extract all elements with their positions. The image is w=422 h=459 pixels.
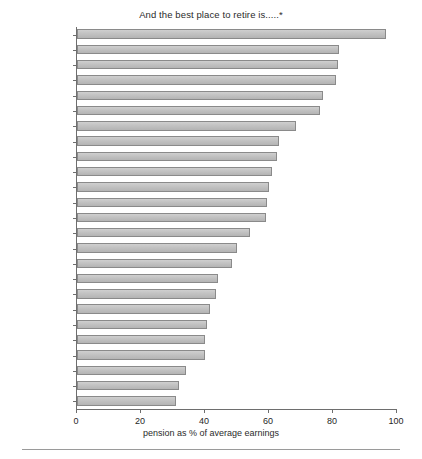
y-axis-tick: [73, 325, 76, 326]
bar-row: Poland: [76, 165, 396, 180]
x-axis-tick: [140, 409, 141, 413]
bar: [77, 60, 338, 69]
x-axis-tick: [268, 409, 269, 413]
bar-row: Italy: [76, 119, 396, 134]
x-axis-tick-label: 80: [327, 416, 337, 426]
y-axis-tick: [73, 126, 76, 127]
retirement-pension-bar-chart: And the best place to retire is.....* Gr…: [0, 0, 422, 459]
y-axis-tick: [73, 35, 76, 36]
bar-row: Finland: [76, 134, 396, 149]
x-axis-tick: [332, 409, 333, 413]
bar: [77, 289, 216, 298]
bar-row: Norway: [76, 180, 396, 195]
x-axis-tick-label: 0: [73, 416, 78, 426]
bar-row: New Zealand: [76, 348, 396, 363]
y-axis-tick: [73, 371, 76, 372]
bar-row: Denmark: [76, 103, 396, 118]
x-axis-title: pension as % of average earnings: [0, 428, 422, 438]
bar: [77, 29, 386, 38]
bar-row: Germany: [76, 333, 396, 348]
y-axis-tick: [73, 96, 76, 97]
y-axis-tick: [73, 111, 76, 112]
y-axis-tick: [73, 294, 76, 295]
bar: [77, 167, 272, 176]
bar-row: Ireland: [76, 378, 396, 393]
bar-row: Australia: [76, 287, 396, 302]
bar-row: UK: [76, 394, 396, 409]
bar: [77, 243, 237, 252]
bar-row: Hungary: [76, 88, 396, 103]
bar: [77, 304, 210, 313]
bar: [77, 228, 250, 237]
y-axis-tick: [73, 233, 76, 234]
bar: [77, 259, 232, 268]
y-axis-tick: [73, 157, 76, 158]
x-axis-tick: [76, 409, 77, 413]
y-axis-tick: [73, 172, 76, 173]
y-axis-tick: [73, 203, 76, 204]
bar-row: Canada: [76, 271, 396, 286]
y-axis-tick: [73, 264, 76, 265]
bar-row: N'lands: [76, 42, 396, 57]
bar: [77, 274, 218, 283]
bar-row: Spain: [76, 58, 396, 73]
chart-title: And the best place to retire is.....*: [0, 9, 422, 20]
y-axis-tick: [73, 340, 76, 341]
bar-row: France: [76, 241, 396, 256]
bar-row: Czech Rep.: [76, 256, 396, 271]
bar: [77, 106, 320, 115]
y-axis-tick: [73, 80, 76, 81]
y-axis-tick: [73, 386, 76, 387]
x-axis-tick-label: 100: [388, 416, 403, 426]
y-axis-tick: [73, 401, 76, 402]
x-axis-line: [76, 409, 396, 410]
plot-area: GreeceN'landsSpainAustriaHungaryDenmarkI…: [76, 27, 396, 409]
bar-row: Sweden: [76, 149, 396, 164]
y-axis-tick: [73, 187, 76, 188]
x-axis-tick-label: 60: [263, 416, 273, 426]
y-axis-tick: [73, 218, 76, 219]
y-axis-tick: [73, 142, 76, 143]
x-axis-tick-label: 40: [199, 416, 209, 426]
bar: [77, 152, 277, 161]
y-axis-tick: [73, 310, 76, 311]
bar-row: Portugal: [76, 226, 396, 241]
bar: [77, 136, 279, 145]
bar: [77, 91, 323, 100]
bar: [77, 45, 339, 54]
bar: [77, 198, 267, 207]
bar: [77, 320, 207, 329]
bar: [77, 182, 269, 191]
bar-row: Japan: [76, 363, 396, 378]
y-axis-tick: [73, 65, 76, 66]
y-axis-tick: [73, 279, 76, 280]
bar: [77, 75, 336, 84]
bar: [77, 213, 266, 222]
bar-row: Greece: [76, 27, 396, 42]
bar: [77, 121, 296, 130]
bar-row: Belgium: [76, 317, 396, 332]
footer-divider: [22, 449, 400, 450]
bar-row: OECD: [76, 195, 396, 210]
x-axis-tick-label: 20: [135, 416, 145, 426]
bar-row: Austria: [76, 73, 396, 88]
x-axis-tick: [396, 409, 397, 413]
x-axis-tick: [204, 409, 205, 413]
y-axis-tick: [73, 249, 76, 250]
bar: [77, 366, 186, 375]
bar: [77, 396, 176, 405]
bar-row: US: [76, 302, 396, 317]
y-axis-tick: [73, 50, 76, 51]
bar: [77, 335, 205, 344]
bar: [77, 381, 179, 390]
bar-row: Switz.: [76, 210, 396, 225]
y-axis-tick: [73, 356, 76, 357]
bar: [77, 350, 205, 359]
